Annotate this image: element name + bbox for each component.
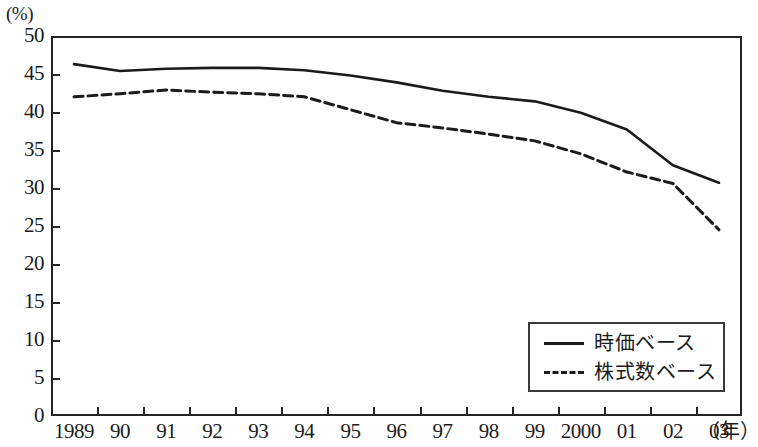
legend-entry-share-count: 株式数ベース: [544, 357, 716, 387]
legend: 時価ベース 株式数ベース: [528, 322, 725, 392]
legend-entry-market-value: 時価ベース: [544, 328, 696, 358]
legend-swatch-solid-icon: [544, 342, 584, 345]
legend-swatch-dashed-icon: [544, 371, 584, 374]
legend-label-market-value: 時価ベース: [594, 333, 696, 353]
stock-ownership-line-chart: (%) 50454035302520151050 198990919293949…: [0, 0, 758, 447]
series-line-share-count: [74, 90, 719, 230]
legend-label-share-count: 株式数ベース: [594, 362, 716, 382]
